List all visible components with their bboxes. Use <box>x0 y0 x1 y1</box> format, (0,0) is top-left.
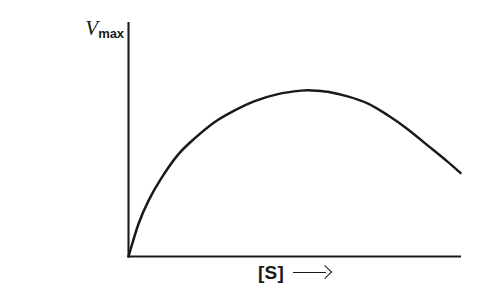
x-axis-title: [S] <box>258 262 331 283</box>
x-axis-title-text: [S] <box>258 262 284 283</box>
vmax-subscript: max <box>98 26 124 41</box>
vmax-label: Vmax <box>68 17 124 45</box>
plot-area <box>0 0 487 306</box>
right-arrow-icon <box>293 266 331 280</box>
vmax-symbol: V <box>85 16 98 40</box>
velocity-curve <box>129 90 461 256</box>
enzyme-kinetics-figure: Vmax Reaction velocity V0 [S] <box>0 0 487 306</box>
